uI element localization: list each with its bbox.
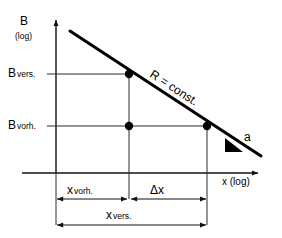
y-tick-b-vorh-base: B — [8, 119, 16, 131]
slope-marker-label: a — [244, 131, 251, 143]
y-tick-b-vorh: B vorh. — [8, 119, 36, 131]
diagram-canvas — [0, 0, 282, 238]
y-tick-b-vers: B vers. — [8, 67, 35, 79]
x-axis-title: x (log) — [222, 177, 250, 187]
line-r-const — [70, 31, 261, 156]
dimension-label-x-vers-sub: vers. — [113, 212, 131, 221]
dimension-label-delta-x: Δx — [150, 184, 164, 196]
dimension-label-x-vorh-sub: vorh. — [74, 187, 93, 196]
y-tick-b-vorh-sub: vorh. — [17, 122, 36, 131]
y-tick-b-vers-sub: vers. — [17, 70, 35, 79]
point-bvorh-xvers — [203, 122, 211, 130]
figure-log-log-diagram: B (log) x (log) B vers. B vorh. x vorh. … — [0, 0, 282, 238]
dimension-label-x-vers-base: x — [106, 209, 112, 221]
point-bvers-xvorh — [125, 70, 133, 78]
y-axis-title: B — [20, 15, 28, 27]
dimension-label-x-vorh-base: x — [67, 184, 73, 196]
point-bvorh-xvorh — [125, 122, 133, 130]
y-axis-scale-note: (log) — [15, 32, 32, 41]
dimension-label-x-vorh: x vorh. — [67, 184, 93, 196]
dimension-label-x-vers: x vers. — [106, 209, 131, 221]
y-tick-b-vers-base: B — [8, 67, 16, 79]
